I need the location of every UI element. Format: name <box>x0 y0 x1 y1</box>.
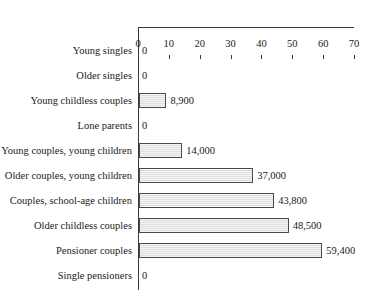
category-label: Older childless couples <box>0 213 132 238</box>
category-label: Couples, school-age children <box>0 188 132 213</box>
value-axis-line <box>138 27 354 28</box>
chart-row: Couples, school-age children43,800 <box>0 188 368 213</box>
bar <box>139 93 166 108</box>
chart-row: Young singles0 <box>0 38 368 63</box>
category-label: Single pensioners <box>0 263 132 288</box>
category-label: Young singles <box>0 38 132 63</box>
chart-row: Lone parents0 <box>0 113 368 138</box>
bar-value-label: 59,400 <box>326 238 355 263</box>
bar-value-label: 8,900 <box>170 88 194 113</box>
chart-row: Older couples, young children37,000 <box>0 163 368 188</box>
chart-row: Older singles0 <box>0 63 368 88</box>
category-label: Lone parents <box>0 113 132 138</box>
bar-value-label: 48,500 <box>293 213 322 238</box>
value-axis: 010203040506070 <box>138 27 354 28</box>
category-label: Pensioner couples <box>0 238 132 263</box>
bar-chart: 010203040506070 Young singles0Older sing… <box>0 0 368 302</box>
bar-value-label: 0 <box>142 63 147 88</box>
category-label: Young childless couples <box>0 88 132 113</box>
bar <box>139 218 289 233</box>
category-label: Older couples, young children <box>0 163 132 188</box>
chart-row: Pensioner couples59,400 <box>0 238 368 263</box>
bar-value-label: 43,800 <box>278 188 307 213</box>
bar <box>139 193 274 208</box>
bar <box>139 243 322 258</box>
bar-value-label: 14,000 <box>186 138 215 163</box>
bar-value-label: 0 <box>142 38 147 63</box>
chart-row: Single pensioners0 <box>0 263 368 288</box>
chart-row: Young childless couples8,900 <box>0 88 368 113</box>
bar-value-label: 0 <box>142 263 147 288</box>
bar-value-label: 37,000 <box>257 163 286 188</box>
bar <box>139 168 253 183</box>
bar-value-label: 0 <box>142 113 147 138</box>
chart-row: Older childless couples48,500 <box>0 213 368 238</box>
bar <box>139 143 182 158</box>
category-label: Young couples, young children <box>0 138 132 163</box>
category-label: Older singles <box>0 63 132 88</box>
chart-row: Young couples, young children14,000 <box>0 138 368 163</box>
